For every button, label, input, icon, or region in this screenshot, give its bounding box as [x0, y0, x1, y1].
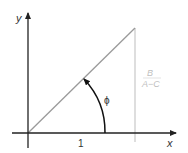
- angle-diagram: y x 1 ϕ B A−C: [0, 0, 188, 153]
- fraction-denominator: A−C: [141, 79, 160, 89]
- x-axis-label: x: [166, 137, 173, 149]
- tick-label-one: 1: [78, 138, 84, 149]
- y-axis-label: y: [15, 12, 23, 24]
- angle-arc-arrow: [84, 79, 105, 133]
- fraction-numerator: B: [147, 68, 153, 78]
- diagonal-line: [28, 28, 135, 133]
- angle-label-phi: ϕ: [104, 95, 110, 106]
